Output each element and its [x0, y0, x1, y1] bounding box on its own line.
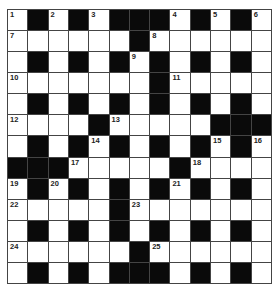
letter-cell[interactable]	[49, 263, 68, 283]
letter-cell[interactable]	[191, 31, 210, 51]
letter-cell[interactable]: 8	[150, 31, 169, 51]
letter-cell[interactable]	[252, 158, 271, 178]
letter-cell[interactable]	[69, 200, 88, 220]
letter-cell[interactable]	[231, 242, 250, 262]
letter-cell[interactable]	[170, 242, 189, 262]
letter-cell[interactable]	[211, 221, 230, 241]
letter-cell[interactable]	[130, 73, 149, 93]
letter-cell[interactable]	[89, 179, 108, 199]
letter-cell[interactable]	[170, 200, 189, 220]
letter-cell[interactable]	[8, 263, 27, 283]
letter-cell[interactable]	[89, 263, 108, 283]
letter-cell[interactable]	[170, 221, 189, 241]
letter-cell[interactable]: 20	[49, 179, 68, 199]
letter-cell[interactable]	[170, 31, 189, 51]
letter-cell[interactable]	[49, 136, 68, 156]
letter-cell[interactable]	[150, 158, 169, 178]
letter-cell[interactable]	[130, 94, 149, 114]
letter-cell[interactable]: 18	[191, 158, 210, 178]
letter-cell[interactable]	[49, 31, 68, 51]
letter-cell[interactable]	[8, 221, 27, 241]
letter-cell[interactable]	[69, 115, 88, 135]
letter-cell[interactable]	[69, 73, 88, 93]
letter-cell[interactable]	[130, 158, 149, 178]
letter-cell[interactable]: 21	[170, 179, 189, 199]
letter-cell[interactable]: 1	[8, 10, 27, 30]
letter-cell[interactable]	[231, 200, 250, 220]
letter-cell[interactable]	[252, 263, 271, 283]
letter-cell[interactable]	[49, 242, 68, 262]
letter-cell[interactable]	[231, 158, 250, 178]
letter-cell[interactable]	[211, 179, 230, 199]
letter-cell[interactable]	[252, 200, 271, 220]
letter-cell[interactable]	[130, 136, 149, 156]
letter-cell[interactable]: 15	[211, 136, 230, 156]
letter-cell[interactable]	[28, 200, 47, 220]
letter-cell[interactable]	[252, 179, 271, 199]
letter-cell[interactable]	[110, 31, 129, 51]
letter-cell[interactable]	[211, 31, 230, 51]
letter-cell[interactable]: 9	[130, 52, 149, 72]
letter-cell[interactable]: 11	[170, 73, 189, 93]
letter-cell[interactable]	[49, 94, 68, 114]
letter-cell[interactable]	[211, 263, 230, 283]
letter-cell[interactable]	[8, 94, 27, 114]
letter-cell[interactable]	[49, 52, 68, 72]
letter-cell[interactable]	[191, 242, 210, 262]
letter-cell[interactable]	[8, 136, 27, 156]
letter-cell[interactable]: 3	[89, 10, 108, 30]
letter-cell[interactable]	[110, 158, 129, 178]
letter-cell[interactable]: 13	[110, 115, 129, 135]
letter-cell[interactable]: 17	[69, 158, 88, 178]
letter-cell[interactable]	[89, 242, 108, 262]
letter-cell[interactable]	[252, 73, 271, 93]
letter-cell[interactable]	[49, 200, 68, 220]
letter-cell[interactable]	[49, 221, 68, 241]
letter-cell[interactable]	[89, 94, 108, 114]
letter-cell[interactable]	[130, 115, 149, 135]
letter-cell[interactable]	[150, 115, 169, 135]
letter-cell[interactable]	[28, 115, 47, 135]
letter-cell[interactable]	[89, 200, 108, 220]
letter-cell[interactable]	[170, 94, 189, 114]
letter-cell[interactable]	[69, 31, 88, 51]
letter-cell[interactable]	[130, 221, 149, 241]
letter-cell[interactable]	[110, 242, 129, 262]
letter-cell[interactable]	[8, 52, 27, 72]
letter-cell[interactable]: 23	[130, 200, 149, 220]
letter-cell[interactable]	[130, 179, 149, 199]
letter-cell[interactable]	[191, 200, 210, 220]
letter-cell[interactable]: 2	[49, 10, 68, 30]
letter-cell[interactable]	[89, 158, 108, 178]
letter-cell[interactable]: 19	[8, 179, 27, 199]
letter-cell[interactable]: 14	[89, 136, 108, 156]
letter-cell[interactable]: 7	[8, 31, 27, 51]
letter-cell[interactable]: 22	[8, 200, 27, 220]
letter-cell[interactable]	[252, 52, 271, 72]
letter-cell[interactable]	[191, 73, 210, 93]
letter-cell[interactable]: 6	[252, 10, 271, 30]
letter-cell[interactable]	[28, 73, 47, 93]
letter-cell[interactable]	[150, 200, 169, 220]
letter-cell[interactable]: 16	[252, 136, 271, 156]
letter-cell[interactable]	[110, 73, 129, 93]
letter-cell[interactable]: 25	[150, 242, 169, 262]
letter-cell[interactable]	[170, 263, 189, 283]
letter-cell[interactable]	[252, 221, 271, 241]
letter-cell[interactable]: 24	[8, 242, 27, 262]
letter-cell[interactable]	[211, 200, 230, 220]
letter-cell[interactable]	[89, 31, 108, 51]
letter-cell[interactable]	[170, 52, 189, 72]
letter-cell[interactable]	[28, 242, 47, 262]
letter-cell[interactable]	[211, 52, 230, 72]
letter-cell[interactable]: 4	[170, 10, 189, 30]
letter-cell[interactable]	[89, 221, 108, 241]
letter-cell[interactable]	[28, 31, 47, 51]
letter-cell[interactable]	[211, 73, 230, 93]
letter-cell[interactable]	[191, 115, 210, 135]
letter-cell[interactable]	[211, 94, 230, 114]
letter-cell[interactable]: 10	[8, 73, 27, 93]
letter-cell[interactable]	[89, 52, 108, 72]
letter-cell[interactable]	[49, 115, 68, 135]
letter-cell[interactable]	[170, 136, 189, 156]
